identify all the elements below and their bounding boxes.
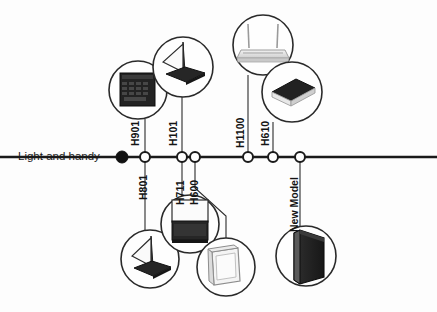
node-label-H600: H600 bbox=[188, 180, 200, 205]
node-label-H101: H101 bbox=[167, 121, 179, 146]
node-label-H711: H711 bbox=[174, 180, 186, 205]
node-label-H801: H801 bbox=[137, 175, 149, 200]
node-label-H901: H901 bbox=[129, 121, 141, 146]
node-H901-H801[interactable] bbox=[140, 152, 150, 162]
node-label-H1100: H1100 bbox=[234, 118, 246, 148]
node-label-H610: H610 bbox=[259, 121, 271, 146]
device-white-box-unit bbox=[208, 245, 240, 285]
node-H610[interactable] bbox=[268, 152, 278, 162]
bubble-H101[interactable] bbox=[153, 37, 213, 97]
bubble-new-model[interactable] bbox=[276, 226, 336, 286]
node-H1100[interactable] bbox=[243, 152, 253, 162]
node-H101-H711[interactable] bbox=[177, 152, 187, 162]
device-standing-laptop-slab bbox=[294, 230, 324, 284]
node-new-model[interactable] bbox=[295, 152, 305, 162]
timeline-start-label: Light and handy bbox=[18, 150, 100, 162]
diagram-canvas: Light and handy H901 H801 H101 H711 H600… bbox=[0, 0, 437, 312]
bubble-H600[interactable] bbox=[197, 238, 255, 296]
timeline-origin-marker bbox=[116, 151, 128, 163]
bubble-H610[interactable] bbox=[262, 62, 322, 122]
node-label-new-model: New Model bbox=[288, 177, 300, 232]
node-H600[interactable] bbox=[190, 152, 200, 162]
device-dark-keyboard-unit bbox=[120, 73, 155, 106]
device-monitor bbox=[172, 200, 208, 243]
